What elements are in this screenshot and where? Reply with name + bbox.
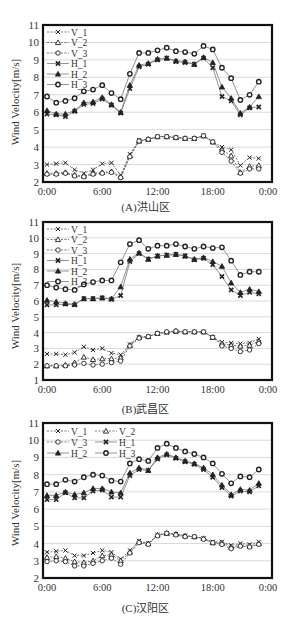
svg-text:11: 11	[28, 216, 39, 228]
svg-text:0:00: 0:00	[259, 186, 278, 197]
legend-label: V_1	[71, 28, 88, 38]
svg-text:5: 5	[34, 311, 40, 323]
legend-label: V_3	[71, 438, 88, 448]
svg-text:11: 11	[28, 19, 39, 31]
legend-label: H_3	[71, 80, 88, 90]
svg-text:6: 6	[34, 106, 40, 118]
svg-text:5: 5	[34, 124, 40, 136]
svg-text:18:00: 18:00	[201, 384, 225, 395]
legend-label: H_1	[71, 59, 88, 69]
chart-panel-c: 2345678910110:006:0012:0018:000:00V_1V_2…	[0, 412, 291, 624]
legend-label: H_2	[71, 449, 88, 459]
svg-text:4: 4	[34, 141, 40, 153]
series-v-2	[44, 133, 261, 179]
chart-panel-a: 2345678910110:006:0012:0018:000:00V_1V_2…	[0, 0, 291, 212]
y-axis-ticks: 234567891011	[28, 19, 40, 188]
svg-text:18:00: 18:00	[201, 186, 225, 197]
line-chart-b: 12345678910110:006:0012:0018:000:00V_1V_…	[0, 212, 291, 412]
legend-label: V_2	[71, 38, 88, 48]
series-v-3	[45, 531, 261, 568]
svg-text:0:00: 0:00	[38, 384, 57, 395]
svg-text:7: 7	[34, 89, 40, 101]
svg-text:10: 10	[28, 36, 40, 48]
legend-label: V_3	[71, 246, 88, 256]
svg-text:0:00: 0:00	[259, 582, 278, 593]
svg-text:0:00: 0:00	[38, 186, 57, 197]
legend-label: V_2	[119, 427, 136, 437]
series-h-1	[45, 453, 261, 502]
svg-text:9: 9	[34, 248, 40, 260]
legend-label: V_1	[71, 225, 88, 235]
y-axis-label-a: Wind Velocity[m/s]	[9, 59, 21, 145]
series-v-1	[45, 134, 261, 177]
svg-text:7: 7	[34, 486, 40, 498]
legend-label: H_2	[71, 70, 88, 80]
svg-text:10: 10	[28, 434, 40, 446]
legend-label: H_1	[71, 256, 88, 266]
svg-text:8: 8	[34, 263, 40, 275]
legend-label: V_3	[71, 49, 88, 59]
svg-text:7: 7	[34, 279, 40, 291]
legend: V_1V_2V_3H_1H_2H_3	[47, 225, 88, 288]
legend-label: H_1	[119, 438, 136, 448]
y-axis-ticks: 1234567891011	[28, 216, 40, 386]
legend-label: H_3	[71, 277, 88, 287]
legend: V_1V_2V_3H_1H_2H_3	[47, 28, 88, 91]
line-chart-c: 2345678910110:006:0012:0018:000:00V_1V_2…	[0, 412, 291, 624]
legend-label: V_2	[71, 235, 88, 245]
svg-text:6:00: 6:00	[93, 384, 112, 395]
svg-text:3: 3	[34, 342, 40, 354]
legend-label: H_3	[119, 449, 136, 459]
x-axis-ticks: 0:006:0012:0018:000:00	[38, 582, 278, 593]
svg-text:12:00: 12:00	[146, 384, 170, 395]
svg-text:8: 8	[34, 469, 40, 481]
y-axis-label-b: Wind Velocity[m/s]	[9, 263, 21, 349]
svg-text:6:00: 6:00	[93, 582, 112, 593]
svg-text:18:00: 18:00	[201, 582, 225, 593]
chart-caption-c: (C)汉阳区	[0, 599, 291, 615]
svg-text:9: 9	[34, 54, 40, 66]
series-v-1	[45, 330, 261, 357]
y-axis-ticks: 234567891011	[28, 417, 40, 584]
line-chart-a: 2345678910110:006:0012:0018:000:00V_1V_2…	[0, 0, 291, 212]
svg-text:12:00: 12:00	[146, 186, 170, 197]
svg-text:8: 8	[34, 71, 40, 83]
svg-text:3: 3	[34, 159, 40, 171]
chart-panel-b: 12345678910110:006:0012:0018:000:00V_1V_…	[0, 212, 291, 412]
legend: V_1V_2V_3H_1H_2H_3	[47, 427, 136, 459]
svg-text:6:00: 6:00	[93, 186, 112, 197]
series-v-3	[45, 134, 261, 180]
svg-text:10: 10	[28, 232, 40, 244]
x-axis-ticks: 0:006:0012:0018:000:00	[38, 384, 278, 395]
svg-text:12:00: 12:00	[146, 582, 170, 593]
svg-text:4: 4	[34, 538, 40, 550]
svg-text:6: 6	[34, 503, 40, 515]
svg-text:4: 4	[34, 327, 40, 339]
svg-text:0:00: 0:00	[38, 582, 57, 593]
svg-text:11: 11	[28, 417, 39, 429]
x-axis-ticks: 0:006:0012:0018:000:00	[38, 186, 278, 197]
svg-text:2: 2	[34, 358, 40, 370]
svg-text:5: 5	[34, 520, 40, 532]
svg-text:3: 3	[34, 555, 40, 567]
y-axis-label-c: Wind Velocity[m/s]	[9, 460, 21, 546]
legend-label: H_2	[71, 267, 88, 277]
svg-text:6: 6	[34, 295, 40, 307]
legend-label: V_1	[71, 427, 88, 437]
svg-text:9: 9	[34, 451, 40, 463]
svg-text:0:00: 0:00	[259, 384, 278, 395]
